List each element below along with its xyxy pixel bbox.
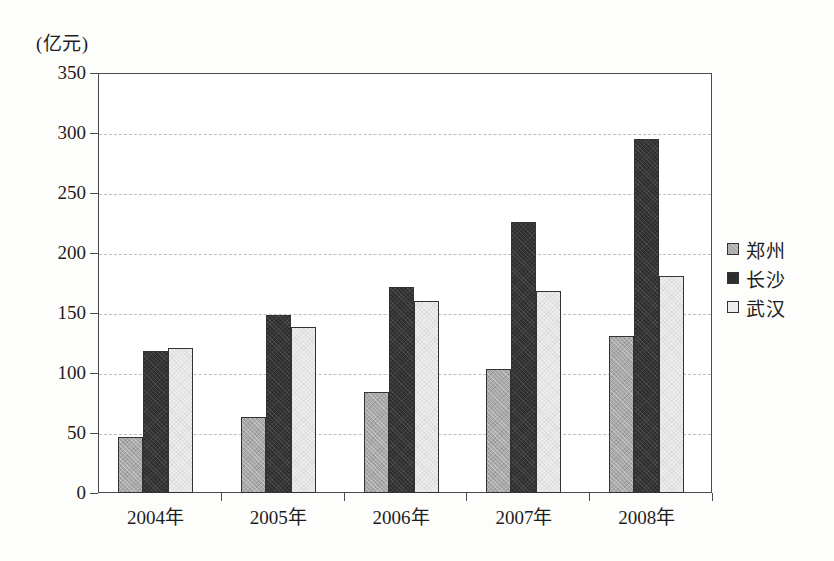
x-axis-tick-mark <box>589 493 590 501</box>
legend-item: 长沙 <box>727 267 785 289</box>
bar <box>389 287 414 493</box>
bar <box>168 348 193 493</box>
y-axis-tick-label: 350 <box>26 62 86 84</box>
y-axis-unit-label: (亿元) <box>36 28 89 55</box>
x-axis-tick-label: 2006年 <box>336 502 466 529</box>
y-axis-tick-mark <box>90 253 98 254</box>
bar <box>143 351 168 493</box>
gridline <box>99 194 711 195</box>
bar <box>241 417 266 493</box>
bar <box>118 437 143 493</box>
x-axis-tick-mark <box>466 493 467 501</box>
y-axis-tick-label: 0 <box>26 482 86 504</box>
gridline <box>99 254 711 255</box>
y-axis-tick-mark <box>90 73 98 74</box>
bar-chart-figure: (亿元) 050100150200250300350 2004年2005年200… <box>0 0 834 561</box>
legend-swatch-icon <box>727 301 739 313</box>
x-axis-tick-label: 2005年 <box>213 502 343 529</box>
y-axis-tick-mark <box>90 133 98 134</box>
bar <box>511 222 536 493</box>
legend-label: 长沙 <box>746 265 785 292</box>
bar <box>659 276 684 493</box>
legend-item: 郑州 <box>727 238 785 260</box>
bar <box>266 315 291 493</box>
legend-item: 武汉 <box>727 296 785 318</box>
legend-label: 武汉 <box>746 294 785 321</box>
bar <box>414 301 439 493</box>
bar <box>364 392 389 493</box>
y-axis-tick-label: 100 <box>26 362 86 384</box>
y-axis-tick-label: 50 <box>26 422 86 444</box>
x-axis-tick-label: 2007年 <box>459 502 589 529</box>
x-axis-tick-mark <box>221 493 222 501</box>
y-axis-tick-mark <box>90 193 98 194</box>
y-axis-tick-mark <box>90 313 98 314</box>
gridline <box>99 134 711 135</box>
y-axis-tick-label: 200 <box>26 242 86 264</box>
bar <box>609 336 634 493</box>
chart-legend: 郑州长沙武汉 <box>727 238 785 318</box>
y-axis-tick-mark <box>90 373 98 374</box>
legend-swatch-icon <box>727 272 739 284</box>
bar <box>486 369 511 493</box>
x-axis-tick-label: 2008年 <box>582 502 712 529</box>
bar <box>634 139 659 493</box>
bar <box>291 327 316 493</box>
y-axis-tick-label: 250 <box>26 182 86 204</box>
legend-label: 郑州 <box>746 236 785 263</box>
bar <box>536 291 561 493</box>
x-axis-tick-mark <box>344 493 345 501</box>
y-axis-tick-label: 150 <box>26 302 86 324</box>
legend-swatch-icon <box>727 243 739 255</box>
x-axis-tick-label: 2004年 <box>91 502 221 529</box>
x-axis-tick-mark <box>712 493 713 501</box>
y-axis-tick-label: 300 <box>26 122 86 144</box>
y-axis-tick-mark <box>90 493 98 494</box>
y-axis-tick-mark <box>90 433 98 434</box>
